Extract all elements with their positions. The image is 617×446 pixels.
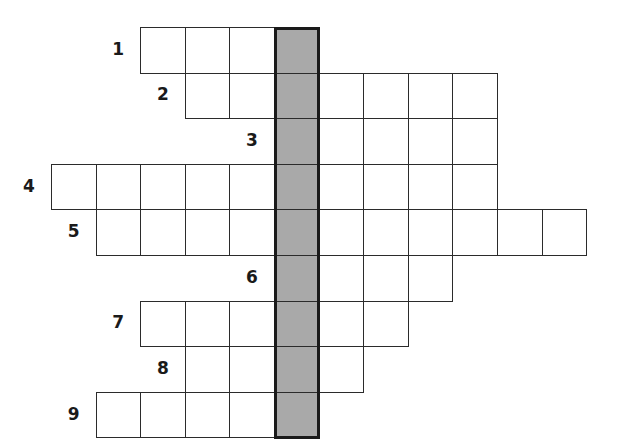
answer-cell[interactable] [363,209,409,256]
answer-cell[interactable] [185,164,231,211]
answer-cell[interactable] [229,164,275,211]
answer-cell-shaded[interactable] [274,209,320,256]
answer-cell[interactable] [542,209,588,256]
answer-cell[interactable] [140,301,186,348]
answer-cell[interactable] [408,118,454,165]
clue-number-6: 6 [242,269,262,286]
answer-cell[interactable] [140,27,186,74]
answer-cell[interactable] [319,209,365,256]
answer-cell[interactable] [408,255,454,302]
clue-number-3: 3 [242,132,262,149]
answer-cell[interactable] [319,346,365,393]
answer-cell-shaded[interactable] [274,301,320,348]
answer-cell[interactable] [363,164,409,211]
clue-number-4: 4 [19,178,39,195]
answer-cell[interactable] [363,73,409,120]
answer-cell[interactable] [185,209,231,256]
answer-cell[interactable] [363,301,409,348]
answer-cell[interactable] [185,301,231,348]
answer-cell[interactable] [363,118,409,165]
answer-cell[interactable] [319,73,365,120]
clue-number-5: 5 [64,223,84,240]
answer-cell[interactable] [319,118,365,165]
answer-cell[interactable] [319,164,365,211]
answer-cell[interactable] [185,73,231,120]
answer-cell[interactable] [408,209,454,256]
answer-cell[interactable] [229,392,275,439]
answer-cell[interactable] [229,301,275,348]
answer-cell-shaded[interactable] [274,118,320,165]
answer-cell[interactable] [140,164,186,211]
answer-cell[interactable] [140,209,186,256]
answer-cell[interactable] [96,209,142,256]
answer-cell[interactable] [319,255,365,302]
clue-number-8: 8 [153,360,173,377]
answer-cell[interactable] [452,209,498,256]
answer-cell-shaded[interactable] [274,164,320,211]
answer-cell-shaded[interactable] [274,255,320,302]
answer-cell[interactable] [51,164,97,211]
answer-cell-shaded[interactable] [274,73,320,120]
answer-cell[interactable] [229,27,275,74]
answer-cell[interactable] [452,164,498,211]
answer-cell[interactable] [229,346,275,393]
clue-number-2: 2 [153,86,173,103]
clue-number-7: 7 [108,314,128,331]
answer-cell[interactable] [408,164,454,211]
answer-cell[interactable] [185,392,231,439]
answer-cell[interactable] [452,73,498,120]
answer-cell[interactable] [140,392,186,439]
crossword-grid: 123456789 [0,0,617,446]
answer-cell[interactable] [363,255,409,302]
answer-cell[interactable] [497,209,543,256]
answer-cell[interactable] [96,164,142,211]
answer-cell[interactable] [96,392,142,439]
answer-cell[interactable] [452,118,498,165]
clue-number-9: 9 [64,406,84,423]
clue-number-1: 1 [108,41,128,58]
answer-cell-shaded[interactable] [274,27,320,74]
answer-cell[interactable] [408,73,454,120]
answer-cell-shaded[interactable] [274,392,320,439]
answer-cell-shaded[interactable] [274,346,320,393]
answer-cell[interactable] [185,346,231,393]
answer-cell[interactable] [185,27,231,74]
answer-cell[interactable] [319,301,365,348]
answer-cell[interactable] [229,209,275,256]
answer-cell[interactable] [229,73,275,120]
